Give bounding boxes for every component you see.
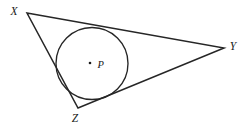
geometry-diagram: X Y Z P — [0, 0, 244, 130]
vertex-label-y: Y — [230, 40, 238, 52]
center-point-dot — [89, 62, 92, 65]
center-label-p: P — [97, 59, 105, 70]
diagram-canvas: X Y Z P — [0, 0, 244, 130]
inscribed-circle — [56, 28, 128, 100]
vertex-label-x: X — [9, 5, 18, 17]
vertex-label-z: Z — [72, 112, 79, 124]
